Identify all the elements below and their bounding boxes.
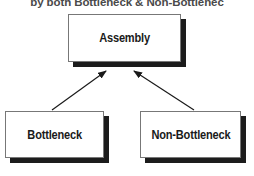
node-non-bottleneck[interactable]: Non-Bottleneck: [140, 111, 241, 158]
node-assembly-label: Assembly: [99, 31, 150, 45]
node-bottleneck[interactable]: Bottleneck: [5, 111, 104, 158]
flowchart-diagram: by both Bottleneck & Non-Bottlenec Assem…: [0, 0, 254, 176]
node-bottleneck-label: Bottleneck: [27, 128, 82, 142]
node-assembly[interactable]: Assembly: [68, 14, 181, 62]
diagram-title: by both Bottleneck & Non-Bottlenec: [0, 0, 254, 8]
edge-non-bottleneck-to-assembly: [134, 71, 194, 110]
node-non-bottleneck-label: Non-Bottleneck: [151, 128, 230, 142]
edge-bottleneck-to-assembly: [52, 71, 106, 110]
